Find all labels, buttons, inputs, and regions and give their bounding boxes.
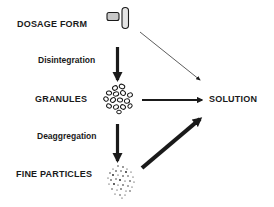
node-fine-particles-label: FINE PARTICLES <box>16 170 92 179</box>
node-granules-label: GRANULES <box>35 95 87 104</box>
node-solution-label: SOLUTION <box>209 95 257 104</box>
fine-particles-icon <box>107 165 134 198</box>
edge-disintegration-label: Disintegration <box>38 56 95 65</box>
arrow-fine-particles-to-solution <box>142 119 200 168</box>
node-dosage-form-label: DOSAGE FORM <box>17 20 87 29</box>
capsule-icon <box>122 8 129 29</box>
granule-cluster-icon <box>103 83 133 113</box>
edge-deaggregation-label: Deaggregation <box>37 132 97 141</box>
tablet-icon <box>107 13 119 21</box>
tablet-and-capsule-icon <box>107 8 129 29</box>
dissolution-process-diagram: DOSAGE FORM Disintegration GRANULES SOLU… <box>0 0 274 207</box>
arrow-dosage-to-solution <box>140 32 200 80</box>
